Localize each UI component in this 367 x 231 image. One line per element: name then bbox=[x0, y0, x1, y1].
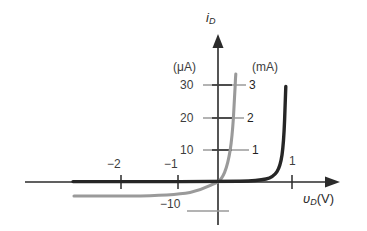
x-axis-label: υD(V) bbox=[303, 192, 334, 207]
tick-label-2-milliamp: 2 bbox=[247, 112, 254, 124]
y-axis-arrowhead bbox=[213, 34, 224, 48]
left-scale-unit-label: (μA) bbox=[173, 61, 196, 73]
tick-label-1-milliamp: 1 bbox=[252, 144, 259, 156]
tick-label-20-microamp: 20 bbox=[180, 112, 193, 124]
x-axis-arrowhead bbox=[325, 177, 340, 188]
tick-label-negative-2-volt: −2 bbox=[107, 158, 121, 170]
y-axis-label-subscript: D bbox=[209, 16, 216, 26]
tick-label-negative-10-microamp: −10 bbox=[160, 198, 180, 210]
tick-label-negative-1-volt: −1 bbox=[164, 158, 178, 170]
curve-milliampere-scale bbox=[73, 87, 286, 182]
y-axis-label: iD bbox=[206, 11, 215, 26]
right-scale-unit-label: (mA) bbox=[252, 61, 278, 73]
x-axis-label-unit: (V) bbox=[317, 191, 334, 206]
tick-label-3-milliamp: 3 bbox=[249, 79, 256, 91]
curve-microampere-scale bbox=[74, 74, 236, 196]
tick-label-positive-1-volt: 1 bbox=[289, 155, 296, 167]
tick-label-30-microamp: 30 bbox=[180, 79, 193, 91]
tick-label-10-microamp: 10 bbox=[180, 144, 193, 156]
diode-iv-characteristic-figure: iD υD(V) (μA) (mA) 30 20 10 −10 3 2 1 −2… bbox=[0, 0, 367, 231]
